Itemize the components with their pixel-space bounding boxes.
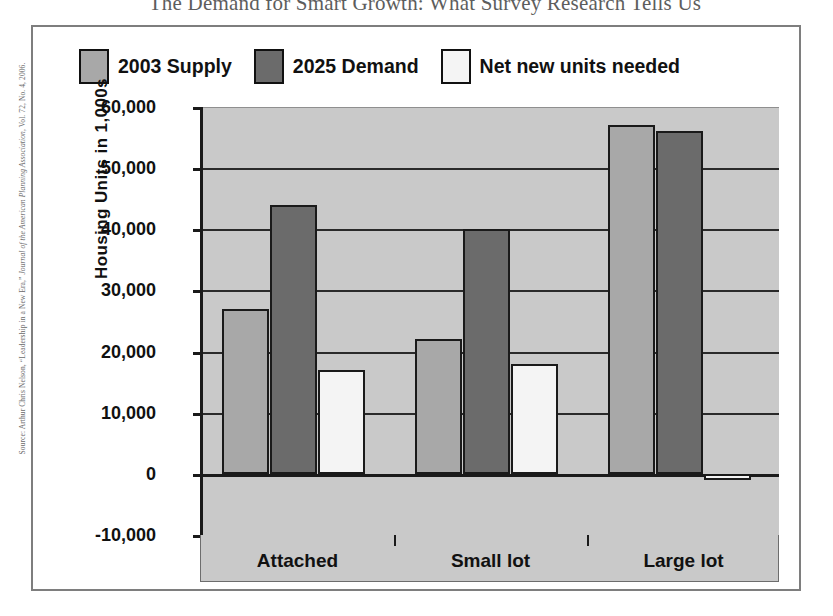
y-tick-mark	[193, 168, 203, 171]
bar-demand-small-lot	[463, 229, 510, 474]
bar-supply-large-lot	[608, 125, 655, 474]
source-citation: Source: Arthur Chris Nelson, “Leadership…	[18, 155, 27, 455]
legend-label-net-new: Net new units needed	[480, 55, 680, 78]
source-journal: Journal of the American Planning Associa…	[18, 131, 27, 275]
source-prefix: Source: Arthur Chris Nelson, “Leadership…	[18, 275, 27, 455]
plot-area: 60,00050,00040,00030,00020,00010,0000-10…	[200, 107, 779, 535]
zero-line	[203, 474, 779, 477]
y-tick-label: -10,000	[36, 525, 156, 546]
legend-label-demand: 2025 Demand	[293, 55, 419, 78]
bar-demand-attached	[270, 205, 317, 474]
y-tick-label: 50,000	[36, 158, 156, 179]
y-tick-label: 30,000	[36, 280, 156, 301]
category-tick	[394, 535, 396, 546]
legend-item-demand: 2025 Demand	[254, 49, 419, 84]
bar-supply-small-lot	[415, 339, 462, 474]
bar-supply-attached	[222, 309, 269, 474]
bar-net-new-large-lot	[704, 474, 751, 480]
y-tick-label: 10,000	[36, 402, 156, 423]
y-tick-mark	[193, 352, 203, 355]
y-tick-label: 20,000	[36, 341, 156, 362]
legend-swatch-demand	[254, 49, 284, 84]
source-suffix: , Vol. 72, No. 4, 2006.	[18, 63, 27, 132]
y-tick-mark	[193, 229, 203, 232]
y-tick-label: 40,000	[36, 219, 156, 240]
y-tick-mark	[193, 413, 203, 416]
figure-frame: 2003 Supply2025 DemandNet new units need…	[31, 25, 801, 591]
category-label-large-lot: Large lot	[643, 550, 723, 572]
bar-net-new-attached	[318, 370, 365, 474]
plot-wrapper: Housing Units in 1,000s 60,00050,00040,0…	[158, 107, 779, 582]
legend-label-supply: 2003 Supply	[118, 55, 232, 78]
category-label-attached: Attached	[257, 550, 338, 572]
y-tick-mark	[193, 474, 203, 477]
y-tick-mark	[193, 290, 203, 293]
bar-demand-large-lot	[656, 131, 703, 473]
y-tick-mark	[193, 107, 203, 110]
bar-net-new-small-lot	[511, 364, 558, 474]
category-axis-strip: AttachedSmall lotLarge lot	[200, 535, 779, 582]
figure-title: The Demand for Smart Growth: What Survey…	[30, 0, 820, 16]
category-tick	[587, 535, 589, 546]
chart-legend: 2003 Supply2025 DemandNet new units need…	[79, 49, 702, 84]
legend-item-net-new: Net new units needed	[441, 49, 680, 84]
legend-swatch-net-new	[441, 49, 471, 84]
y-tick-label: 60,000	[36, 97, 156, 118]
category-label-small-lot: Small lot	[451, 550, 530, 572]
y-tick-label: 0	[36, 463, 156, 484]
